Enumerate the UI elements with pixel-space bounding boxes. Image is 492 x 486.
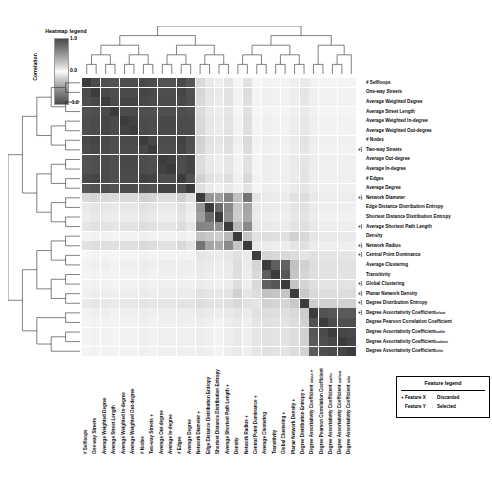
dendrogram-link bbox=[66, 236, 80, 246]
heatmap-cell bbox=[224, 78, 233, 87]
row-label-text: Degree Assortativity Coefficient bbox=[366, 337, 436, 347]
heatmap-cell bbox=[271, 116, 280, 125]
heatmap-cell bbox=[300, 347, 309, 356]
heatmap-cell bbox=[82, 193, 91, 202]
heatmap-cell bbox=[110, 212, 119, 221]
heatmap-cell bbox=[91, 337, 100, 346]
heatmap-cell bbox=[271, 241, 280, 250]
heatmap-cell bbox=[215, 78, 224, 87]
heatmap-cell bbox=[148, 193, 157, 202]
heatmap-cell bbox=[186, 270, 195, 279]
heatmap-cell bbox=[110, 289, 119, 298]
heatmap-cell bbox=[196, 116, 205, 125]
heatmap-cell bbox=[347, 164, 356, 173]
feature-legend-discarded-marker: + bbox=[401, 395, 404, 400]
heatmap-cell bbox=[281, 145, 290, 154]
heatmap-cell bbox=[281, 337, 290, 346]
heatmap-cell bbox=[233, 318, 242, 327]
heatmap-cell bbox=[196, 164, 205, 173]
heatmap-cell bbox=[328, 289, 337, 298]
heatmap-cell bbox=[262, 270, 271, 279]
heatmap-cell bbox=[281, 347, 290, 356]
heatmap-cell bbox=[233, 116, 242, 125]
heatmap-cell bbox=[158, 126, 167, 135]
heatmap-cell bbox=[252, 107, 261, 116]
column-label: Two-way Streets + bbox=[148, 414, 155, 454]
heatmap-cell bbox=[338, 308, 347, 317]
column-label: Average Weighted Degree bbox=[101, 397, 108, 454]
dendrogram-link bbox=[332, 64, 341, 74]
heatmap-cell bbox=[186, 136, 195, 145]
row-label-subscript: in/in bbox=[436, 349, 443, 353]
heatmap-cell bbox=[281, 164, 290, 173]
heatmap-cell bbox=[82, 136, 91, 145]
heatmap-cell bbox=[139, 116, 148, 125]
heatmap-cell bbox=[215, 184, 224, 193]
column-label: # Nodes bbox=[139, 436, 146, 454]
heatmap-cell bbox=[177, 78, 186, 87]
heatmap-cell bbox=[309, 88, 318, 97]
heatmap-cell bbox=[129, 232, 138, 241]
heatmap-cell bbox=[120, 270, 129, 279]
row-label-text: Average Weighted Out-degree bbox=[366, 126, 432, 136]
column-dendrogram-svg bbox=[82, 26, 356, 76]
heatmap-cell bbox=[205, 222, 214, 231]
heatmap-cell bbox=[158, 155, 167, 164]
heatmap-cell bbox=[328, 222, 337, 231]
heatmap-cell bbox=[101, 88, 110, 97]
heatmap-cell bbox=[215, 164, 224, 173]
heatmap-cell bbox=[243, 260, 252, 269]
heatmap-cell bbox=[300, 260, 309, 269]
discarded-marker-icon: +| bbox=[358, 193, 366, 203]
heatmap-cell bbox=[338, 347, 347, 356]
column-label-text: Degree Assortativity Coefficient bbox=[309, 383, 314, 454]
row-label: .Average Weighted In-degree bbox=[358, 116, 428, 126]
heatmap-cell bbox=[224, 222, 233, 231]
heatmap-cell bbox=[82, 270, 91, 279]
heatmap-cell bbox=[290, 88, 299, 97]
heatmap-cell bbox=[271, 280, 280, 289]
heatmap-cell bbox=[167, 88, 176, 97]
heatmap-cell bbox=[319, 193, 328, 202]
dendrogram-link bbox=[37, 97, 51, 135]
heatmap-cell bbox=[205, 251, 214, 260]
heatmap-cell bbox=[224, 299, 233, 308]
column-label: Degree Assortativity Coefficient out/in bbox=[327, 373, 335, 454]
heatmap-cell bbox=[148, 97, 157, 106]
heatmap-cell bbox=[281, 289, 290, 298]
heatmap-cell bbox=[186, 299, 195, 308]
heatmap-cell bbox=[186, 203, 195, 212]
heatmap-cell bbox=[177, 126, 186, 135]
heatmap-cell bbox=[82, 308, 91, 317]
row-label: .Average Street Length bbox=[358, 107, 415, 117]
heatmap-cell bbox=[319, 78, 328, 87]
heatmap-cell bbox=[129, 260, 138, 269]
heatmap-cell bbox=[262, 337, 271, 346]
heatmap-cell bbox=[101, 318, 110, 327]
heatmap-cell bbox=[101, 308, 110, 317]
column-label-subscript: in/out bbox=[310, 373, 314, 383]
heatmap-cell bbox=[233, 126, 242, 135]
heatmap-cell bbox=[328, 347, 337, 356]
row-label: +|Two-way Streets bbox=[358, 145, 402, 155]
row-label: .Average Degree bbox=[358, 183, 401, 193]
heatmap-cell bbox=[271, 260, 280, 269]
heatmap-cell bbox=[338, 270, 347, 279]
heatmap-cell bbox=[224, 107, 233, 116]
heatmap-cell bbox=[309, 337, 318, 346]
row-label: .Degree Assortativity Coefficient out/ou… bbox=[358, 337, 448, 347]
heatmap-cell bbox=[177, 308, 186, 317]
heatmap-cell bbox=[328, 212, 337, 221]
heatmap-cell bbox=[300, 318, 309, 327]
heatmap-cell bbox=[300, 337, 309, 346]
heatmap-cell bbox=[338, 184, 347, 193]
heatmap-cell bbox=[338, 260, 347, 269]
heatmap-cell bbox=[262, 260, 271, 269]
heatmap-cell bbox=[243, 212, 252, 221]
heatmap-cell bbox=[243, 203, 252, 212]
heatmap-cell bbox=[233, 289, 242, 298]
heatmap-cell bbox=[186, 337, 195, 346]
heatmap-cell bbox=[167, 97, 176, 106]
heatmap-cell bbox=[271, 78, 280, 87]
heatmap-cell bbox=[167, 280, 176, 289]
